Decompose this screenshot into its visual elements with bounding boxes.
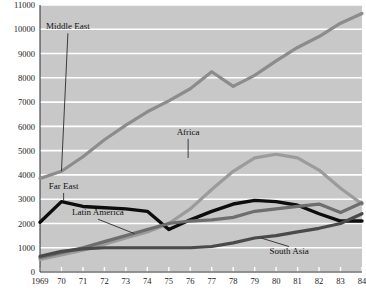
series-label-africa: Africa bbox=[177, 127, 200, 137]
y-axis-ticks: 0100020003000400050006000700080009000100… bbox=[14, 0, 35, 277]
series-label-far-east: Far East bbox=[49, 181, 79, 191]
y-tick-label: 8000 bbox=[18, 73, 35, 83]
series-label-middle-east: Middle East bbox=[46, 21, 90, 31]
y-tick-label: 4000 bbox=[18, 170, 35, 180]
y-tick-label: 6000 bbox=[18, 122, 35, 132]
x-tick-label: 74 bbox=[143, 276, 152, 286]
chart-figure: 0100020003000400050006000700080009000100… bbox=[0, 0, 366, 306]
x-tick-label: 84 bbox=[358, 276, 366, 286]
x-tick-label: 79 bbox=[250, 276, 259, 286]
x-tick-label: 82 bbox=[315, 276, 324, 286]
x-tick-label: 75 bbox=[165, 276, 174, 286]
line-chart: 0100020003000400050006000700080009000100… bbox=[0, 0, 366, 306]
y-tick-label: 2000 bbox=[18, 219, 35, 229]
y-tick-label: 11000 bbox=[14, 0, 35, 10]
series-label-latin-america: Latin America bbox=[72, 207, 124, 217]
series-label-south-asia: South Asia bbox=[269, 246, 308, 256]
x-tick-label: 81 bbox=[293, 276, 302, 286]
y-tick-label: 10000 bbox=[14, 24, 35, 34]
x-tick-label: 80 bbox=[272, 276, 281, 286]
x-tick-label: 76 bbox=[186, 276, 195, 286]
x-tick-label: 71 bbox=[79, 276, 88, 286]
x-tick-label: 83 bbox=[336, 276, 345, 286]
y-tick-label: 9000 bbox=[18, 49, 35, 59]
y-tick-label: 3000 bbox=[18, 194, 35, 204]
x-tick-label: 70 bbox=[57, 276, 66, 286]
plot-background bbox=[40, 5, 362, 272]
x-tick-label: 77 bbox=[207, 276, 216, 286]
x-tick-label: 73 bbox=[122, 276, 131, 286]
y-tick-label: 5000 bbox=[18, 146, 35, 156]
y-tick-label: 7000 bbox=[18, 97, 35, 107]
x-tick-label: 78 bbox=[229, 276, 238, 286]
x-tick-label: 1969 bbox=[32, 276, 49, 286]
x-tick-label: 72 bbox=[100, 276, 109, 286]
y-tick-label: 1000 bbox=[18, 243, 35, 253]
